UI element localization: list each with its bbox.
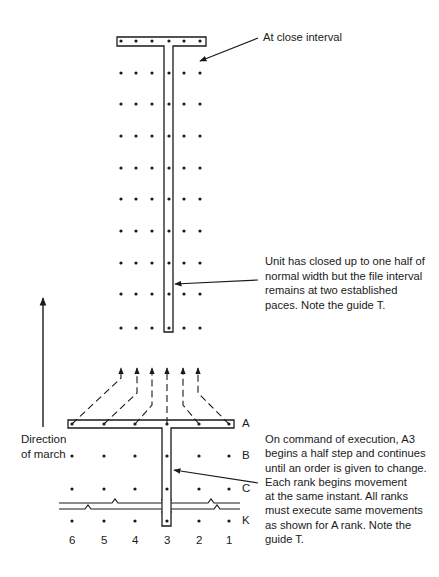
soldier-dot xyxy=(70,454,73,457)
soldier-dot xyxy=(167,229,170,232)
soldier-dot xyxy=(119,134,122,137)
rank-label-k: K xyxy=(242,514,250,526)
soldier-dot xyxy=(150,197,153,200)
upper-formation-dots xyxy=(119,39,201,329)
soldier-dot xyxy=(70,519,73,522)
soldier-dot xyxy=(134,102,137,105)
soldier-dot xyxy=(198,71,201,74)
soldier-dot xyxy=(150,229,153,232)
soldier-dot xyxy=(167,134,170,137)
soldier-dot xyxy=(133,454,136,457)
soldier-dot xyxy=(167,39,170,42)
soldier-dot xyxy=(119,261,122,264)
soldier-dot xyxy=(165,487,168,490)
soldier-dot xyxy=(134,71,137,74)
soldier-dot xyxy=(134,326,137,329)
file-label-4: 4 xyxy=(132,534,138,546)
soldier-dot xyxy=(182,71,185,74)
soldier-dot xyxy=(150,71,153,74)
soldier-dot xyxy=(182,197,185,200)
soldier-dot xyxy=(182,229,185,232)
soldier-dot xyxy=(182,102,185,105)
file-label-1: 1 xyxy=(226,534,232,546)
soldier-dot xyxy=(197,422,200,425)
file-label-5: 5 xyxy=(101,534,107,546)
soldier-dot xyxy=(150,292,153,295)
soldier-dot xyxy=(133,487,136,490)
soldier-dot xyxy=(133,422,136,425)
soldier-dot xyxy=(134,229,137,232)
soldier-dot xyxy=(134,166,137,169)
soldier-dot xyxy=(150,102,153,105)
soldier-dot xyxy=(102,454,105,457)
soldier-dot xyxy=(167,261,170,264)
soldier-dot xyxy=(227,487,230,490)
soldier-dot xyxy=(167,326,170,329)
soldier-dot xyxy=(119,39,122,42)
direction-of-march-label: Direction of march xyxy=(21,432,66,461)
soldier-dot xyxy=(182,166,185,169)
soldier-dot xyxy=(134,197,137,200)
rank-label-a: A xyxy=(242,417,250,429)
soldier-dot xyxy=(150,166,153,169)
soldier-dot xyxy=(70,422,73,425)
soldier-dot xyxy=(70,487,73,490)
soldier-dot xyxy=(119,326,122,329)
soldier-dot xyxy=(182,261,185,264)
soldier-dot xyxy=(119,292,122,295)
soldier-dot xyxy=(102,422,105,425)
soldier-dot xyxy=(197,487,200,490)
soldier-dot xyxy=(198,229,201,232)
soldier-dot xyxy=(119,229,122,232)
soldier-dot xyxy=(198,102,201,105)
soldier-dot xyxy=(119,166,122,169)
file-label-3: 3 xyxy=(164,534,170,546)
close-interval-pointer xyxy=(200,38,258,61)
soldier-dot xyxy=(182,326,185,329)
soldier-dot xyxy=(167,197,170,200)
soldier-dot xyxy=(134,39,137,42)
soldier-dot xyxy=(198,39,201,42)
file-label-6: 6 xyxy=(69,534,75,546)
soldier-dot xyxy=(197,454,200,457)
soldier-dot xyxy=(134,261,137,264)
closed-up-pointer xyxy=(175,280,258,284)
soldier-dot xyxy=(227,454,230,457)
soldier-dot xyxy=(198,166,201,169)
soldier-dot xyxy=(198,134,201,137)
soldier-dot xyxy=(165,519,168,522)
file-label-2: 2 xyxy=(196,534,202,546)
soldier-dot xyxy=(167,166,170,169)
rank-label-c: C xyxy=(242,482,250,494)
soldier-dot xyxy=(119,102,122,105)
soldier-dot xyxy=(119,197,122,200)
soldier-dot xyxy=(150,326,153,329)
soldier-dot xyxy=(182,292,185,295)
soldier-dot xyxy=(227,519,230,522)
soldier-dot xyxy=(102,487,105,490)
soldier-dot xyxy=(150,134,153,137)
soldier-dot xyxy=(134,292,137,295)
soldier-dot xyxy=(165,454,168,457)
soldier-dot xyxy=(198,292,201,295)
rank-a-movement-paths xyxy=(72,368,229,424)
soldier-dot xyxy=(167,292,170,295)
close-interval-label: At close interval xyxy=(263,30,342,45)
break-lines xyxy=(59,499,241,513)
soldier-dot xyxy=(198,326,201,329)
soldier-dot xyxy=(167,71,170,74)
soldier-dot xyxy=(198,261,201,264)
soldier-dot xyxy=(102,519,105,522)
soldier-dot xyxy=(150,261,153,264)
soldier-dot xyxy=(198,197,201,200)
rank-label-b: B xyxy=(242,449,250,461)
upper-guide-t xyxy=(117,37,206,332)
soldier-dot xyxy=(197,519,200,522)
soldier-dot xyxy=(182,39,185,42)
soldier-dot xyxy=(133,519,136,522)
soldier-dot xyxy=(119,71,122,74)
soldier-dot xyxy=(165,422,168,425)
soldier-dot xyxy=(134,134,137,137)
soldier-dot xyxy=(182,134,185,137)
command-note: On command of execution, A3 begins a hal… xyxy=(265,432,427,546)
